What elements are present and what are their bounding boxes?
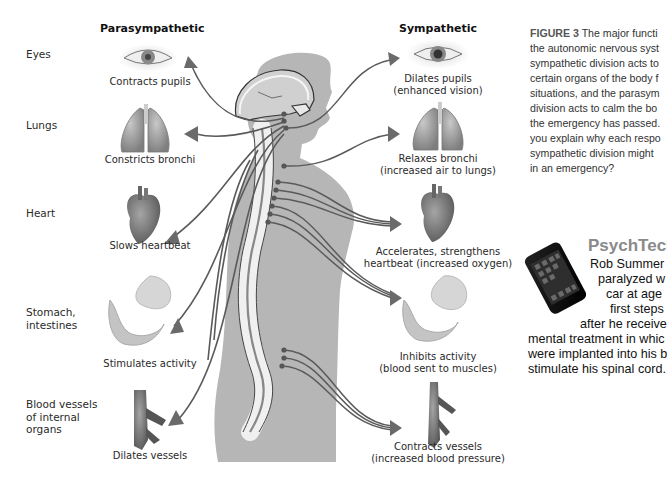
sympathetic-caption-eyes: Dilates pupils (enhanced vision): [378, 73, 498, 97]
brain-outline: [235, 70, 314, 120]
parasympathetic-caption-heart: Slows heartbeat: [90, 240, 210, 252]
parasympathetic-caption-vessels: Dilates vessels: [90, 450, 210, 462]
psychtech-title: PsychTech: [588, 236, 667, 256]
parasympathetic-heading: Parasympathetic: [100, 22, 200, 35]
parasympathetic-stomach-intestines-icon: [109, 276, 171, 345]
organ-label-stomach-intestines: Stomach, intestines: [26, 306, 77, 331]
parasympathetic-blood-vessel-icon: [134, 390, 166, 450]
organ-label-heart: Heart: [26, 207, 55, 220]
sympathetic-heart-icon: [421, 184, 454, 242]
organ-label-lungs: Lungs: [26, 119, 57, 132]
figure-caption: FIGURE 3 The major functi the autonomic …: [530, 26, 661, 176]
smartphone-icon: [523, 240, 588, 315]
organ-label-eyes: Eyes: [26, 48, 51, 61]
parasympathetic-caption-stomach: Stimulates activity: [90, 358, 210, 370]
parasympathetic-heart-icon: [127, 186, 160, 244]
parasympathetic-caption-eyes: Contracts pupils: [90, 76, 210, 88]
sympathetic-stomach-intestines-icon: [403, 276, 467, 341]
parasympathetic-caption-lungs: Constricts bronchi: [90, 154, 210, 166]
parasympathetic-lungs-icon: [121, 104, 169, 152]
parasympathetic-eye-icon: [118, 44, 178, 72]
sympathetic-caption-lungs: Relaxes bronchi (increased air to lungs): [368, 153, 508, 177]
sympathetic-heading: Sympathetic: [388, 22, 488, 35]
sympathetic-eye-icon: [406, 39, 470, 69]
figure-label: FIGURE 3: [530, 27, 579, 39]
sympathetic-blood-vessel-icon: [428, 382, 456, 448]
sympathetic-caption-heart: Accelerates, strengthens heartbeat (incr…: [360, 246, 516, 270]
sympathetic-caption-stomach: Inhibits activity (blood sent to muscles…: [368, 351, 508, 375]
sympathetic-arrowheads: [388, 52, 402, 436]
sympathetic-caption-vessels: Contracts vessels (increased blood press…: [360, 441, 516, 465]
organ-label-blood-vessels: Blood vessels of internal organs: [26, 398, 97, 436]
sympathetic-lungs-icon: [413, 102, 463, 150]
